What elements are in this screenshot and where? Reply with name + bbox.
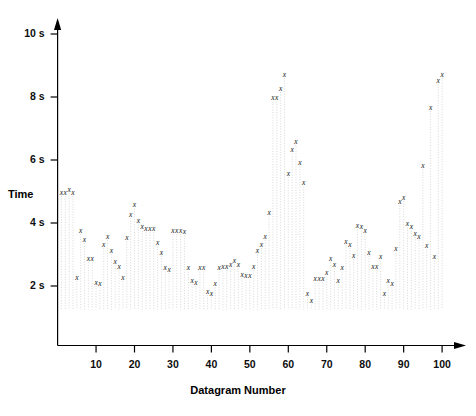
data-point-marker: x [247, 271, 252, 280]
data-point-marker: x [124, 233, 129, 242]
data-point-marker: x [309, 296, 314, 305]
data-point-marker: x [336, 276, 341, 285]
data-point-marker: x [301, 178, 306, 187]
data-point-marker: x [128, 210, 133, 219]
x-axis-tick-label: 100 [422, 358, 462, 370]
data-point-marker: x [324, 268, 329, 277]
data-point-marker: x [251, 262, 256, 271]
data-point-marker: x [101, 240, 106, 249]
data-point-marker: x [263, 232, 268, 241]
data-point-marker: x [420, 161, 425, 170]
data-point-marker: x [209, 289, 214, 298]
scatter-chart: xxxxxxxxxxxxxxxxxxxxxxxxxxxxxxxxxxxxxxxx… [0, 0, 476, 416]
x-axis-tick-label: 10 [76, 358, 116, 370]
data-point-marker: x [293, 137, 298, 146]
data-point-marker: x [266, 208, 271, 217]
data-point-marker: x [78, 226, 83, 235]
y-axis-tick-label: 4 s [0, 216, 45, 228]
data-point-marker: x [213, 279, 218, 288]
data-point-marker: x [332, 260, 337, 269]
x-axis-title: Datagram Number [0, 384, 476, 396]
data-point-marker: x [155, 238, 160, 247]
data-point-marker: x [393, 244, 398, 253]
data-point-marker: x [401, 193, 406, 202]
data-point-marker: x [286, 169, 291, 178]
data-point-marker: x [74, 273, 79, 282]
data-point-marker: x [186, 263, 191, 272]
data-point-marker: x [363, 226, 368, 235]
data-point-marker: x [416, 232, 421, 241]
data-point-marker: x [97, 279, 102, 288]
data-point-marker: x [282, 70, 287, 79]
data-point-marker: x [132, 200, 137, 209]
data-point-marker: x [193, 278, 198, 287]
data-point-marker: x [151, 224, 156, 233]
data-point-marker: x [159, 248, 164, 257]
x-axis-arrow-icon [454, 342, 466, 349]
data-point-marker: x [297, 158, 302, 167]
data-point-marker: x [424, 241, 429, 250]
data-points: xxxxxxxxxxxxxxxxxxxxxxxxxxxxxxxxxxxxxxxx… [59, 70, 445, 306]
x-axis-tick-label: 70 [307, 358, 347, 370]
x-axis-tick-label: 90 [384, 358, 424, 370]
data-point-marker: x [432, 252, 437, 261]
data-stems [61, 78, 442, 310]
data-point-marker: x [70, 188, 75, 197]
data-point-marker: x [382, 289, 387, 298]
data-point-marker: x [116, 262, 121, 271]
y-axis-tick-label: 10 s [0, 27, 45, 39]
data-point-marker: x [439, 70, 444, 79]
x-axis-tick-label: 50 [230, 358, 270, 370]
plot-area: xxxxxxxxxxxxxxxxxxxxxxxxxxxxxxxxxxxxxxxx… [0, 0, 476, 416]
data-point-marker: x [109, 246, 114, 255]
y-axis-tick-label: 6 s [0, 153, 45, 165]
data-point-marker: x [428, 103, 433, 112]
x-axis-tick-label: 20 [115, 358, 155, 370]
data-point-marker: x [120, 273, 125, 282]
data-point-marker: x [82, 235, 87, 244]
data-point-marker: x [259, 240, 264, 249]
data-point-marker: x [347, 240, 352, 249]
data-point-marker: x [378, 252, 383, 261]
x-axis-tick-label: 40 [191, 358, 231, 370]
data-point-marker: x [278, 84, 283, 93]
data-point-marker: x [274, 93, 279, 102]
data-point-marker: x [366, 248, 371, 257]
data-point-marker: x [339, 263, 344, 272]
data-point-marker: x [374, 262, 379, 271]
data-point-marker: x [201, 263, 206, 272]
y-axis-tick-label: 2 s [0, 279, 45, 291]
x-axis-tick-label: 60 [268, 358, 308, 370]
x-axis-tick-label: 80 [345, 358, 385, 370]
y-axis-title: Time [8, 188, 33, 200]
data-point-marker: x [90, 254, 95, 263]
data-point-marker: x [351, 251, 356, 260]
data-point-marker: x [289, 145, 294, 154]
y-axis-arrow-icon [54, 18, 61, 30]
y-axis-tick-label: 8 s [0, 90, 45, 102]
data-point-marker: x [182, 227, 187, 236]
data-point-marker: x [166, 265, 171, 274]
data-point-marker: x [389, 279, 394, 288]
data-point-marker: x [236, 260, 241, 269]
data-point-marker: x [105, 232, 110, 241]
x-axis-tick-label: 30 [153, 358, 193, 370]
